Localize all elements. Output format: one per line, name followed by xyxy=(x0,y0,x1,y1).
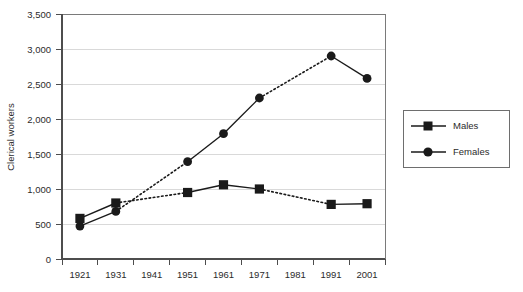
segment-females-1971-1991 xyxy=(259,56,331,98)
x-tick-label-1961: 1961 xyxy=(213,269,234,280)
x-tick-label-1941: 1941 xyxy=(141,269,162,280)
datapoint-females-1971 xyxy=(255,94,264,103)
datapoint-males-1921 xyxy=(75,214,84,223)
datapoint-males-1971 xyxy=(255,184,264,193)
y-tick-label-3000: 3,000 xyxy=(27,44,51,55)
chart-legend: Males Females xyxy=(404,111,510,168)
y-tick-label-0: 0 xyxy=(46,254,51,265)
segment-males-1931-1951 xyxy=(116,193,188,204)
segment-males-1961-1971 xyxy=(224,185,260,189)
datapoint-males-1931 xyxy=(111,198,120,207)
line-chart: 3,500 3,000 2,500 2,000 1,500 1,000 500 … xyxy=(0,0,523,292)
x-tick-marks xyxy=(62,259,385,265)
y-tick-label-2000: 2,000 xyxy=(27,114,51,125)
datapoint-males-1991 xyxy=(327,200,336,209)
datapoint-males-1951 xyxy=(183,188,192,197)
segment-females-1931-1951 xyxy=(116,162,188,212)
segment-males-1991-2001 xyxy=(331,204,367,205)
x-tick-label-1981: 1981 xyxy=(285,269,306,280)
datapoint-females-2001 xyxy=(363,74,372,83)
gridlines xyxy=(62,14,385,224)
y-tick-label-3500: 3,500 xyxy=(27,9,51,20)
legend-label-males: Males xyxy=(453,120,479,131)
legend-marker-circle-females xyxy=(423,147,432,156)
y-tick-label-1000: 1,000 xyxy=(27,184,51,195)
y-tick-label-1500: 1,500 xyxy=(27,149,51,160)
datapoint-females-1931 xyxy=(111,207,120,216)
datapoint-females-1951 xyxy=(183,157,192,166)
y-axis-title: Clerical workers xyxy=(5,103,16,171)
segment-males-1921-1931 xyxy=(80,203,116,218)
segment-males-1971-1991 xyxy=(259,189,331,204)
chart-figure: 3,500 3,000 2,500 2,000 1,500 1,000 500 … xyxy=(0,0,523,292)
legend-marker-square-males xyxy=(424,122,433,131)
segment-females-1951-1961 xyxy=(188,134,224,162)
x-tick-label-1991: 1991 xyxy=(321,269,342,280)
x-tick-label-1921: 1921 xyxy=(69,269,90,280)
datapoint-females-1961 xyxy=(219,129,228,138)
y-tick-labels: 3,500 3,000 2,500 2,000 1,500 1,000 500 … xyxy=(27,9,51,265)
legend-label-females: Females xyxy=(453,146,490,157)
series-males xyxy=(75,180,371,223)
x-tick-label-2001: 2001 xyxy=(356,269,377,280)
x-tick-label-1931: 1931 xyxy=(105,269,126,280)
segment-females-1961-1971 xyxy=(224,98,260,134)
x-tick-label-1971: 1971 xyxy=(249,269,270,280)
y-tick-marks xyxy=(56,14,62,259)
datapoint-males-2001 xyxy=(362,199,371,208)
x-tick-label-1951: 1951 xyxy=(177,269,198,280)
datapoint-females-1991 xyxy=(327,52,336,61)
y-tick-label-500: 500 xyxy=(35,219,51,230)
datapoint-females-1921 xyxy=(76,222,85,231)
datapoint-males-1961 xyxy=(219,180,228,189)
segment-females-1991-2001 xyxy=(331,56,367,78)
x-tick-labels: 1921 1931 1941 1951 1961 1971 1981 1991 … xyxy=(69,269,377,280)
y-tick-label-2500: 2,500 xyxy=(27,79,51,90)
